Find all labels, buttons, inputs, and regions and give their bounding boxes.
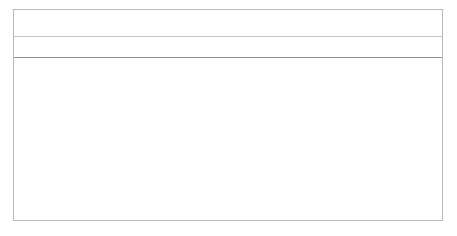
plot-area — [14, 37, 442, 220]
x-axis-tick-labels — [14, 37, 442, 57]
chart-title-bar — [14, 10, 442, 36]
chart-figure — [13, 9, 443, 221]
bar-rows — [14, 58, 442, 220]
